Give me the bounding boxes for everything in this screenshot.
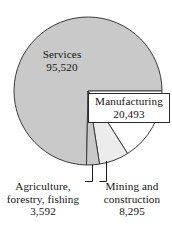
label-agriculture-value: 3,592 <box>0 205 89 218</box>
label-services-value: 95,520 <box>16 61 108 74</box>
label-manufacturing-value: 20,493 <box>89 108 169 121</box>
label-manufacturing-name: Manufacturing <box>89 95 169 108</box>
label-services: Services 95,520 <box>16 48 108 73</box>
label-services-name: Services <box>16 48 108 61</box>
label-mining-value: 8,295 <box>92 205 172 218</box>
label-mining-line1: Mining and <box>92 180 172 193</box>
label-agriculture-line1: Agriculture, <box>0 180 89 193</box>
label-agriculture-forestry-fishing: Agriculture, forestry, fishing 3,592 <box>0 180 89 218</box>
leader-line-agriculture <box>85 165 93 182</box>
label-mining-line2: construction <box>92 193 172 206</box>
pie-chart: Services 95,520 Manufacturing 20,493 Agr… <box>0 0 172 229</box>
label-manufacturing: Manufacturing 20,493 <box>88 93 170 123</box>
label-agriculture-line2: forestry, fishing <box>0 193 89 206</box>
label-mining-construction: Mining and construction 8,295 <box>92 180 172 218</box>
